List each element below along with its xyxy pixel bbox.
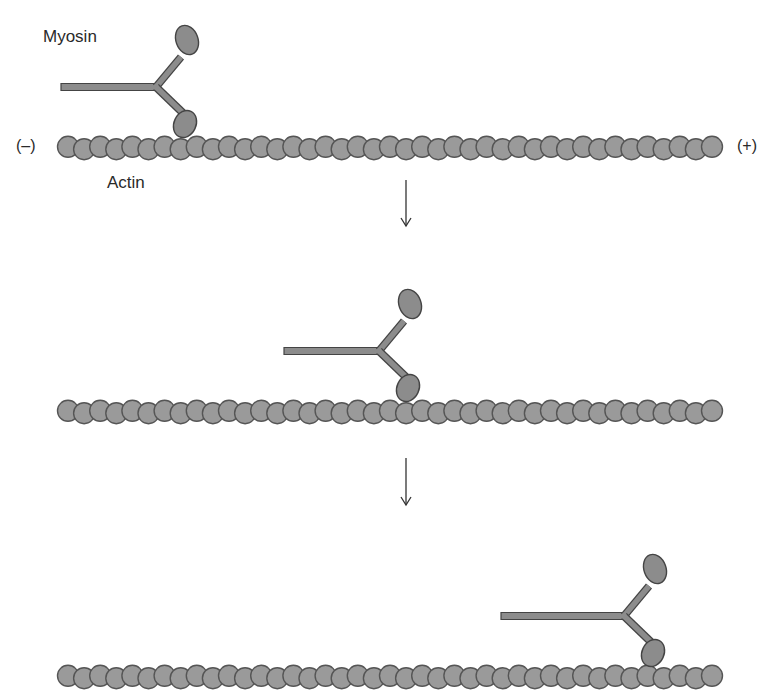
myosin-tail bbox=[284, 348, 379, 355]
plus-end-label: (+) bbox=[737, 137, 757, 155]
myosin-label: Myosin bbox=[43, 27, 97, 47]
step-arrow-down-icon bbox=[401, 458, 411, 505]
myosin-head-detached bbox=[172, 22, 203, 58]
actin-subunit bbox=[702, 136, 723, 157]
myosin-tail bbox=[61, 84, 156, 91]
diagram-canvas bbox=[0, 0, 765, 695]
myosin-head-detached bbox=[395, 286, 426, 322]
panel-step-1 bbox=[58, 22, 723, 160]
actin-subunit bbox=[702, 400, 723, 421]
myosin-head-bound bbox=[637, 636, 669, 671]
actin-filament bbox=[58, 400, 723, 423]
actin-filament bbox=[58, 136, 723, 159]
myosin-motor bbox=[284, 286, 425, 405]
myosin-motor bbox=[501, 551, 670, 670]
minus-end-label: (–) bbox=[16, 137, 36, 155]
myosin-actin-diagram: Myosin Actin (–) (+) bbox=[0, 0, 765, 695]
panel-step-2 bbox=[58, 286, 723, 424]
panel-step-3 bbox=[58, 551, 723, 689]
myosin-tail bbox=[501, 613, 624, 620]
myosin-head-detached bbox=[640, 551, 671, 587]
actin-filament bbox=[58, 665, 723, 688]
actin-label: Actin bbox=[107, 173, 145, 193]
step-arrow-down-icon bbox=[401, 180, 411, 226]
actin-subunit bbox=[702, 665, 723, 686]
